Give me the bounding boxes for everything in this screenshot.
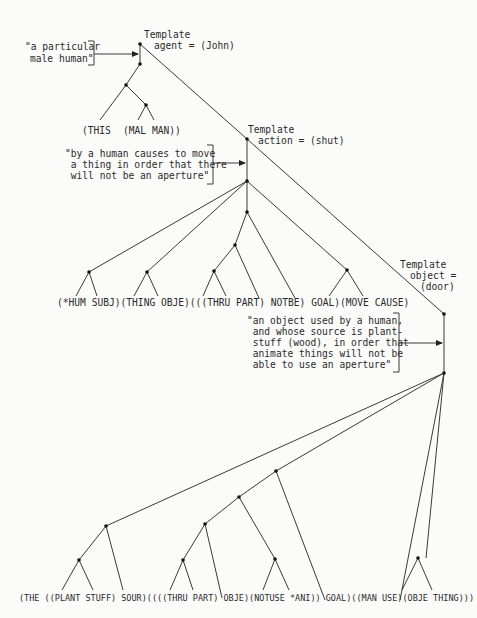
agent-formula-this: (THIS <box>82 125 111 136</box>
svg-text:action = (shut): action = (shut) <box>258 135 345 146</box>
object-gloss-line-5: able to use an aperture" <box>247 359 391 370</box>
object-gloss: "an object used by a human, and whose so… <box>247 313 442 372</box>
agent-template-label: Template agent = (John) <box>144 29 235 51</box>
action-gloss-line-1: "by a human causes to move <box>65 148 215 159</box>
svg-text:Template: Template <box>144 29 190 40</box>
action-gloss: "by a human causes to move a thing in or… <box>65 145 245 184</box>
agent-gloss-line-1: "a particular <box>25 41 100 52</box>
tree-diagram: (THIS (MAL MAN)) "a particular male huma… <box>0 0 477 618</box>
semantic-template-diagram: (THIS (MAL MAN)) "a particular male huma… <box>0 0 477 618</box>
agent-gloss-line-2: male human" <box>30 53 94 64</box>
spine-action-object <box>247 139 444 314</box>
svg-text:(door): (door) <box>420 281 455 292</box>
agent-subtree: (THIS (MAL MAN)) <box>82 42 181 136</box>
action-gloss-line-3: will not be an aperture" <box>65 170 209 181</box>
object-gloss-line-1: "an object used by a human, <box>247 315 403 326</box>
object-gloss-line-2: and whose source is plant- <box>247 326 403 337</box>
action-formula: (*HUM SUBJ)(THING OBJE)(((THRU PART) NOT… <box>57 297 409 308</box>
action-template-label: Template action = (shut) <box>248 124 345 146</box>
object-template-label: Template object = (door) <box>400 259 456 292</box>
object-formula: (THE ((PLANT STUFF) SOUR)((((THRU PART) … <box>19 592 474 603</box>
action-gloss-line-2: a thing in order that there <box>65 159 227 170</box>
svg-text:object =: object = <box>410 270 456 281</box>
object-gloss-line-3: stuff (wood), in order that <box>247 337 409 348</box>
agent-gloss: "a particular male human" <box>25 41 138 65</box>
object-gloss-line-4: animate things will not be <box>247 348 403 359</box>
svg-text:Template: Template <box>400 259 446 270</box>
svg-text:agent = (John): agent = (John) <box>154 40 235 51</box>
agent-formula-mal-man: (MAL MAN)) <box>123 125 181 136</box>
svg-text:Template: Template <box>248 124 294 135</box>
